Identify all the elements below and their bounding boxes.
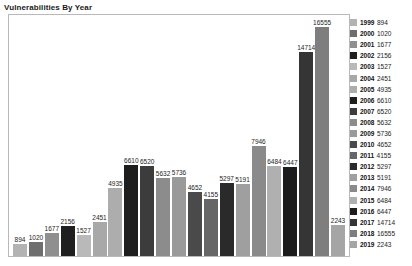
bar-value-label: 1527	[76, 227, 90, 234]
bar-value-label: 5736	[172, 169, 186, 176]
bar-value-label: 16555	[313, 19, 331, 26]
legend-value-label: 2243	[377, 241, 391, 248]
legend-swatch-icon	[350, 208, 357, 215]
bar-2008[interactable]: 5632	[156, 15, 170, 256]
bar-rect	[315, 27, 329, 256]
bar-value-label: 6520	[140, 158, 154, 165]
legend-value-label: 7946	[377, 185, 391, 192]
legend-item-2004[interactable]: 20042451	[350, 72, 410, 83]
bar-rect	[220, 183, 234, 256]
legend-value-label: 1020	[377, 30, 391, 37]
legend-year-label: 2010	[360, 141, 374, 148]
legend-item-2011[interactable]: 20114155	[350, 150, 410, 161]
bar-rect	[77, 235, 91, 256]
legend-item-2009[interactable]: 20095736	[350, 128, 410, 139]
legend-value-label: 2156	[377, 52, 391, 59]
bar-2017[interactable]: 14714	[299, 15, 313, 256]
bar-rect	[252, 146, 266, 256]
legend-swatch-icon	[350, 219, 357, 226]
legend-item-2010[interactable]: 20104652	[350, 139, 410, 150]
legend-item-2019[interactable]: 20192243	[350, 239, 410, 250]
legend-swatch-icon	[350, 230, 357, 237]
bar-2001[interactable]: 1677	[45, 15, 59, 256]
legend-item-2002[interactable]: 20022156	[350, 50, 410, 61]
legend-swatch-icon	[350, 174, 357, 181]
bar-value-label: 5297	[219, 175, 233, 182]
bar-2018[interactable]: 16555	[315, 15, 329, 256]
bar-rect	[45, 233, 59, 256]
legend-item-2008[interactable]: 20085632	[350, 117, 410, 128]
legend-value-label: 6610	[377, 97, 391, 104]
bar-2007[interactable]: 6520	[140, 15, 154, 256]
legend-item-2013[interactable]: 20135191	[350, 172, 410, 183]
bar-value-label: 6610	[124, 157, 138, 164]
bar-2016[interactable]: 6447	[283, 15, 297, 256]
legend-year-label: 2011	[360, 152, 374, 159]
legend-year-label: 2004	[360, 75, 374, 82]
bar-2011[interactable]: 4155	[204, 15, 218, 256]
legend-year-label: 2009	[360, 130, 374, 137]
legend-item-2017[interactable]: 201714714	[350, 217, 410, 228]
bar-2006[interactable]: 6610	[124, 15, 138, 256]
bar-2014[interactable]: 7946	[252, 15, 266, 256]
legend-item-1999[interactable]: 1999894	[350, 17, 410, 28]
legend-item-2016[interactable]: 20166447	[350, 206, 410, 217]
legend-year-label: 2008	[360, 119, 374, 126]
bar-2004[interactable]: 2451	[93, 15, 107, 256]
chart-legend: 1999894200010202001167720022156200315272…	[350, 17, 410, 250]
legend-swatch-icon	[350, 130, 357, 137]
bar-2012[interactable]: 5297	[220, 15, 234, 256]
bar-2003[interactable]: 1527	[77, 15, 91, 256]
bar-rect	[172, 177, 186, 256]
legend-item-2003[interactable]: 20031527	[350, 61, 410, 72]
bar-value-label: 2243	[331, 217, 345, 224]
vulnerabilities-by-year-chart: Vulnerabilities By Year 8941020167721561…	[0, 0, 412, 266]
bar-value-label: 6447	[283, 159, 297, 166]
legend-value-label: 5191	[377, 174, 391, 181]
bar-value-label: 2156	[60, 218, 74, 225]
legend-value-label: 14714	[377, 219, 395, 226]
bar-2013[interactable]: 5191	[236, 15, 250, 256]
legend-item-2000[interactable]: 20001020	[350, 28, 410, 39]
legend-value-label: 1527	[377, 63, 391, 70]
bar-rect	[13, 244, 27, 256]
legend-swatch-icon	[350, 52, 357, 59]
legend-value-label: 1677	[377, 41, 391, 48]
bar-rect	[61, 226, 75, 256]
bar-2002[interactable]: 2156	[61, 15, 75, 256]
bar-2015[interactable]: 6484	[267, 15, 281, 256]
legend-swatch-icon	[350, 241, 357, 248]
legend-swatch-icon	[350, 75, 357, 82]
bar-value-label: 4155	[204, 191, 218, 198]
bar-rect	[108, 188, 122, 256]
legend-item-2014[interactable]: 20147946	[350, 183, 410, 194]
legend-item-2018[interactable]: 201816555	[350, 228, 410, 239]
legend-item-2001[interactable]: 20011677	[350, 39, 410, 50]
bar-2009[interactable]: 5736	[172, 15, 186, 256]
bar-1999[interactable]: 894	[13, 15, 27, 256]
bar-2010[interactable]: 4652	[188, 15, 202, 256]
bar-rect	[204, 199, 218, 256]
legend-year-label: 2018	[360, 230, 374, 237]
legend-year-label: 2015	[360, 197, 374, 204]
bar-rect	[140, 166, 154, 256]
bar-rect	[236, 184, 250, 256]
bar-rect	[93, 222, 107, 256]
legend-item-2015[interactable]: 20156484	[350, 195, 410, 206]
legend-item-2012[interactable]: 20125297	[350, 161, 410, 172]
legend-item-2007[interactable]: 20076520	[350, 106, 410, 117]
legend-item-2006[interactable]: 20066610	[350, 95, 410, 106]
legend-year-label: 2001	[360, 41, 374, 48]
legend-swatch-icon	[350, 163, 357, 170]
bar-value-label: 1677	[45, 225, 59, 232]
bar-2000[interactable]: 1020	[29, 15, 43, 256]
legend-item-2005[interactable]: 20054935	[350, 84, 410, 95]
bar-2019[interactable]: 2243	[331, 15, 345, 256]
legend-value-label: 2451	[377, 75, 391, 82]
legend-value-label: 6520	[377, 108, 391, 115]
legend-value-label: 4935	[377, 86, 391, 93]
bar-series: 8941020167721561527245149356610652056325…	[9, 15, 349, 256]
bar-2005[interactable]: 4935	[108, 15, 122, 256]
legend-swatch-icon	[350, 141, 357, 148]
legend-value-label: 6484	[377, 197, 391, 204]
